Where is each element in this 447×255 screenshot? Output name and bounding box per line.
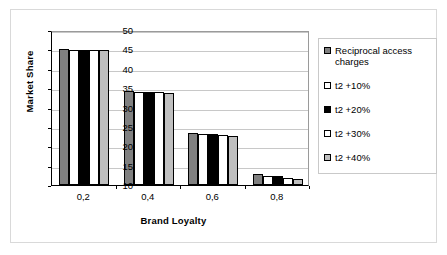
legend-swatch-icon bbox=[324, 130, 331, 137]
legend-label: t2 +40% bbox=[335, 152, 370, 163]
legend-label: t2 +20% bbox=[335, 104, 370, 115]
y-tick-label: 30 bbox=[93, 103, 133, 114]
legend-item[interactable]: Reciprocal access charges bbox=[324, 45, 431, 67]
bar bbox=[188, 133, 198, 185]
y-tick-label: 45 bbox=[93, 44, 133, 55]
y-tick-mark bbox=[48, 147, 51, 148]
y-tick-label: 35 bbox=[93, 83, 133, 94]
legend-swatch-icon bbox=[324, 154, 331, 161]
bar bbox=[228, 136, 238, 185]
legend-item[interactable]: t2 +10% bbox=[324, 80, 431, 91]
chart-figure: Market Share Brand Loyalty 1015202530354… bbox=[10, 9, 437, 243]
bar bbox=[154, 92, 164, 185]
y-tick-mark bbox=[48, 109, 51, 110]
legend-swatch-icon bbox=[324, 106, 331, 113]
bar-groups bbox=[52, 32, 308, 185]
x-tick-label: 0,4 bbox=[118, 191, 178, 202]
legend-label: Reciprocal access charges bbox=[335, 45, 431, 67]
bar bbox=[164, 93, 174, 185]
plot-area bbox=[51, 31, 309, 186]
y-tick-mark bbox=[48, 89, 51, 90]
y-axis-title: Market Share bbox=[24, 32, 35, 132]
bar bbox=[134, 92, 144, 185]
bar bbox=[59, 49, 69, 185]
bar-group bbox=[246, 32, 311, 185]
legend-item[interactable]: t2 +40% bbox=[324, 152, 431, 163]
y-tick-label: 10 bbox=[93, 180, 133, 191]
x-tick-mark bbox=[116, 186, 117, 189]
y-tick-label: 15 bbox=[93, 161, 133, 172]
x-tick-mark bbox=[245, 186, 246, 189]
x-tick-label: 0,6 bbox=[182, 191, 242, 202]
chart-legend: Reciprocal access chargest2 +10%t2 +20%t… bbox=[318, 38, 437, 174]
bar bbox=[253, 174, 263, 185]
x-axis-title: Brand Loyalty bbox=[41, 215, 306, 226]
legend-label: t2 +10% bbox=[335, 80, 370, 91]
y-tick-mark bbox=[48, 167, 51, 168]
legend-item[interactable]: t2 +20% bbox=[324, 104, 431, 115]
bar bbox=[273, 176, 283, 185]
y-tick-mark bbox=[48, 128, 51, 129]
y-tick-label: 50 bbox=[93, 25, 133, 36]
y-tick-mark bbox=[48, 186, 51, 187]
x-tick-mark bbox=[309, 186, 310, 189]
bar bbox=[263, 176, 273, 185]
x-tick-label: 0,2 bbox=[53, 191, 113, 202]
bar bbox=[198, 134, 208, 185]
x-tick-label: 0,8 bbox=[247, 191, 307, 202]
y-tick-mark bbox=[48, 50, 51, 51]
bar-group bbox=[181, 32, 246, 185]
y-tick-label: 20 bbox=[93, 141, 133, 152]
y-tick-mark bbox=[48, 31, 51, 32]
bar bbox=[283, 178, 293, 185]
legend-swatch-icon bbox=[324, 47, 331, 54]
bar bbox=[79, 50, 89, 185]
legend-swatch-icon bbox=[324, 82, 331, 89]
x-tick-mark bbox=[180, 186, 181, 189]
y-tick-label: 25 bbox=[93, 122, 133, 133]
y-tick-mark bbox=[48, 70, 51, 71]
y-tick-label: 40 bbox=[93, 64, 133, 75]
legend-label: t2 +30% bbox=[335, 128, 370, 139]
bar bbox=[144, 92, 154, 185]
bar bbox=[218, 135, 228, 185]
bar bbox=[69, 50, 79, 185]
bar bbox=[293, 179, 303, 185]
legend-item[interactable]: t2 +30% bbox=[324, 128, 431, 139]
bar bbox=[208, 134, 218, 185]
